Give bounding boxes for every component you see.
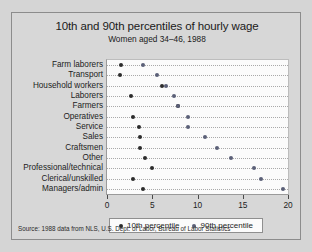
gridline-row [107, 96, 288, 97]
data-point-10th [118, 73, 122, 77]
data-point-90th [215, 146, 219, 150]
category-label: Clerical/unskilled [14, 173, 106, 182]
data-point-90th [172, 94, 176, 98]
category-label: Transport [14, 70, 106, 79]
category-label: Managers/admin [14, 183, 106, 192]
x-axis-tick [107, 195, 108, 199]
category-axis-labels: Farm laborersTransportHousehold workersL… [12, 59, 106, 195]
gridline-row [107, 106, 288, 107]
x-axis-tick [198, 195, 199, 199]
data-point-10th [138, 146, 142, 150]
data-point-90th [281, 187, 285, 191]
gridline-row [107, 137, 288, 138]
category-label: Operatives [14, 111, 106, 120]
data-point-90th [252, 166, 256, 170]
category-label: Sales [14, 132, 106, 141]
data-point-90th [203, 135, 207, 139]
x-axis-tick-label: 5 [150, 200, 155, 210]
category-label: Laborers [14, 91, 106, 100]
data-point-90th [259, 177, 263, 181]
data-point-90th [186, 125, 190, 129]
data-point-10th [119, 63, 123, 67]
gridline-row [107, 86, 288, 87]
gridline-row [107, 189, 288, 190]
gridline-row [107, 158, 288, 159]
data-point-10th [131, 177, 135, 181]
gridline-row [107, 127, 288, 128]
category-label: Other [14, 152, 106, 161]
data-point-10th [141, 187, 145, 191]
gridline-row [107, 65, 288, 66]
data-point-10th [131, 115, 135, 119]
x-axis-tick-label: 20 [283, 200, 292, 210]
plot-inner [107, 60, 288, 194]
data-point-90th [186, 115, 190, 119]
category-label: Household workers [14, 80, 106, 89]
x-axis-tick [152, 195, 153, 199]
data-point-10th [137, 125, 141, 129]
chart-title: 10th and 90th percentiles of hourly wage [12, 19, 302, 33]
category-label: Service [14, 122, 106, 131]
data-point-10th [150, 166, 154, 170]
data-point-10th [143, 156, 147, 160]
gridline-row [107, 75, 288, 76]
x-axis-tick [243, 195, 244, 199]
data-point-10th [138, 135, 142, 139]
data-point-90th [164, 84, 168, 88]
category-label: Farmers [14, 101, 106, 110]
plot-area [106, 59, 289, 195]
data-point-90th [155, 73, 159, 77]
category-label: Professional/technical [14, 163, 106, 172]
gridline-row [107, 148, 288, 149]
data-point-90th [176, 104, 180, 108]
title-block: 10th and 90th percentiles of hourly wage… [12, 19, 302, 45]
chart-subtitle: Women aged 34–46, 1988 [12, 34, 302, 45]
figure-page: 10th and 90th percentiles of hourly wage… [0, 0, 312, 252]
x-axis-tick-label: 10 [193, 200, 202, 210]
category-label: Craftsmen [14, 142, 106, 151]
data-point-10th [129, 94, 133, 98]
x-axis-tick-label: 0 [105, 200, 110, 210]
x-axis-tick-label: 15 [238, 200, 247, 210]
x-axis-tick [288, 195, 289, 199]
category-label: Farm laborers [14, 60, 106, 69]
data-point-90th [229, 156, 233, 160]
x-axis: 05101520 [106, 195, 289, 215]
chart-panel: 10th and 90th percentiles of hourly wage… [11, 12, 301, 240]
gridline-row [107, 168, 288, 169]
data-point-90th [141, 63, 145, 67]
source-note: Source: 1988 data from NLS, U.S. Dept. o… [18, 225, 230, 232]
